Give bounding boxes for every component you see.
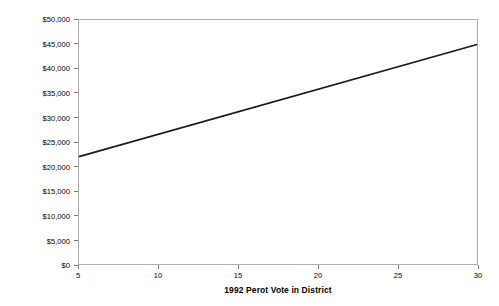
y-tick-label: $45,000 xyxy=(43,40,74,48)
y-tick-label: $0 xyxy=(62,262,74,270)
y-tick-label: $30,000 xyxy=(43,114,74,122)
y-tick-label: $20,000 xyxy=(43,163,74,171)
plot-area xyxy=(78,19,478,265)
x-axis-title: 1992 Perot Vote in District xyxy=(78,285,478,295)
data-series-line xyxy=(79,44,477,156)
chart-figure: 1994 Republican Party Expenditures $0$5,… xyxy=(0,0,499,306)
y-tick-label: $10,000 xyxy=(43,213,74,221)
x-tick-label: 30 xyxy=(474,272,482,280)
y-tick-label: $50,000 xyxy=(43,16,74,24)
x-tick-mark xyxy=(318,265,319,269)
y-tick-label: $25,000 xyxy=(43,139,74,147)
x-tick-mark xyxy=(478,265,479,269)
x-tick-label: 25 xyxy=(394,272,402,280)
x-tick-label: 5 xyxy=(76,272,80,280)
x-tick-mark xyxy=(78,265,79,269)
y-tick-label: $15,000 xyxy=(43,188,74,196)
x-tick-mark xyxy=(158,265,159,269)
x-tick-label: 20 xyxy=(314,272,322,280)
x-tick-label: 15 xyxy=(234,272,242,280)
x-tick-mark xyxy=(238,265,239,269)
y-axis-ticks: $0$5,000$10,000$15,000$20,000$25,000$30,… xyxy=(0,19,78,265)
data-line-chart xyxy=(79,20,477,264)
y-tick-label: $40,000 xyxy=(43,65,74,73)
y-tick-label: $5,000 xyxy=(47,237,74,245)
x-tick-mark xyxy=(398,265,399,269)
x-tick-label: 10 xyxy=(154,272,162,280)
y-tick-label: $35,000 xyxy=(43,90,74,98)
